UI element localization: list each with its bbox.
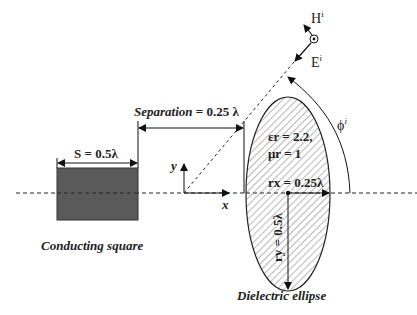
permittivity-label: εr = 2.2, [268,129,313,144]
y-axis-label: y [169,158,177,173]
square-size-label: S = 0.5λ [74,146,118,161]
ellipse-caption: Dielectric ellipse [236,288,326,303]
rx-label: rx = 0.25λ [268,175,324,190]
h-field-dot [313,38,316,41]
h-field-label: Hi [311,9,324,26]
separation-label: Separation = 0.25 λ [134,104,239,119]
conducting-square [57,168,138,220]
permeability-label: μr = 1 [268,146,301,161]
diagram-canvas: S = 0.5λ Separation = 0.25 λ y x εr = 2.… [0,0,417,315]
e-field-label: Ei [311,53,323,70]
ry-label: ry = 0.5λ [270,213,285,262]
h-field-arrow [304,25,312,35]
e-field-arrow [295,43,311,61]
x-axis-label: x [221,197,229,212]
incidence-angle-label: ϕi [337,116,347,133]
square-caption: Conducting square [41,238,143,253]
